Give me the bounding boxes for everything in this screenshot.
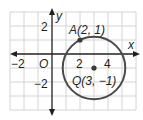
point-q [91,65,96,70]
y-axis-down-arrow-icon [49,109,55,116]
x-axis-label: x [127,38,135,52]
point-a [77,37,82,42]
x-tick-neg2: −2 [11,57,25,71]
graph-canvas: x y O −2 2 4 2 −2 A(2, 1) Q(3, −1) [0,0,143,120]
y-axis [49,8,55,116]
x-tick-4: 4 [104,57,111,71]
point-a-label: A(2, 1) [68,23,105,37]
origin-label: O [39,57,48,71]
point-q-label: Q(3, −1) [72,74,116,88]
y-tick-2: 2 [41,20,48,34]
y-tick-neg2: −2 [34,77,48,91]
y-axis-label: y [55,9,63,23]
coordinate-plane-diagram: x y O −2 2 4 2 −2 A(2, 1) Q(3, −1) [0,0,143,120]
x-tick-2: 2 [76,57,83,71]
